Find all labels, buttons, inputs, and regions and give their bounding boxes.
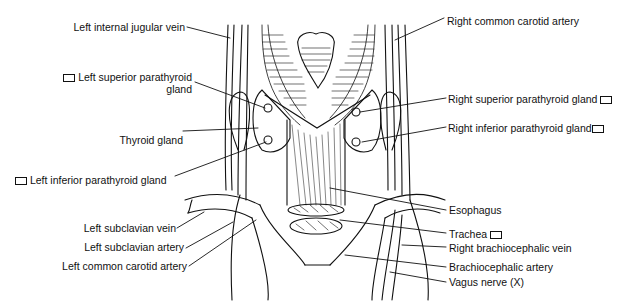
label-trachea: Trachea xyxy=(449,228,502,240)
label-left-inferior-parathyroid-gland: Left inferior parathyroid gland xyxy=(15,174,167,186)
label-right-superior-parathyroid-gland: Right superior parathyroid gland xyxy=(448,93,612,105)
label-esophagus: Esophagus xyxy=(449,204,502,216)
label-left-superior-parathyroid-gland: Left superior parathyroid gland xyxy=(63,71,192,95)
label-left-subclavian-vein: Left subclavian vein xyxy=(84,222,176,234)
label-left-common-carotid-artery: Left common carotid artery xyxy=(62,260,187,272)
answer-box[interactable] xyxy=(63,74,75,82)
answer-box[interactable] xyxy=(592,125,604,133)
answer-box[interactable] xyxy=(600,96,612,104)
label-left-subclavian-artery: Left subclavian artery xyxy=(84,241,184,253)
label-right-common-carotid-artery: Right common carotid artery xyxy=(447,15,579,27)
anatomy-diagram: Left internal jugular vein Left superior… xyxy=(0,0,628,308)
label-vagus-nerve: Vagus nerve (X) xyxy=(449,276,524,288)
label-right-inferior-parathyroid-gland: Right inferior parathyroid gland xyxy=(448,122,604,134)
answer-box[interactable] xyxy=(15,177,27,185)
answer-box[interactable] xyxy=(490,231,502,239)
label-brachiocephalic-artery: Brachiocephalic artery xyxy=(449,261,553,273)
label-left-internal-jugular-vein: Left internal jugular vein xyxy=(74,21,186,33)
label-thyroid-gland: Thyroid gland xyxy=(119,134,183,146)
label-right-brachiocephalic-vein: Right brachiocephalic vein xyxy=(449,242,572,254)
